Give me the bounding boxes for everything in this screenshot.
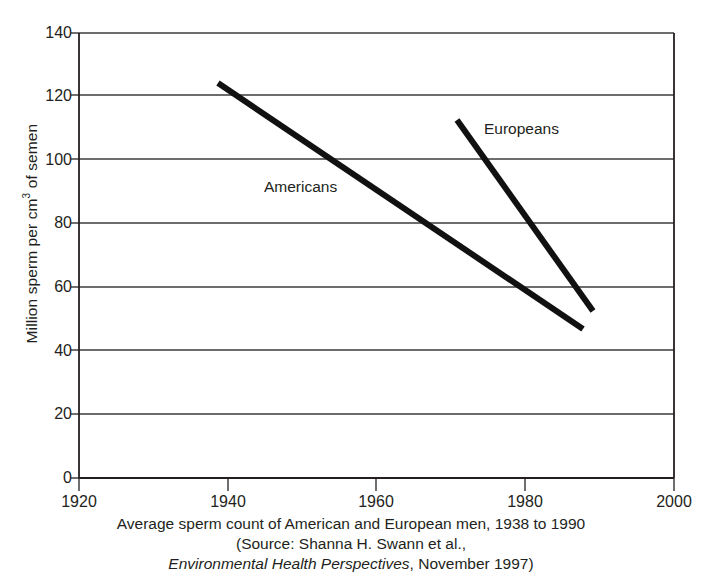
caption-line-1: Average sperm count of American and Euro… — [0, 514, 702, 534]
series-line-europeans — [457, 120, 593, 311]
x-tick-1940: 1940 — [188, 494, 268, 510]
caption-line-3: Environmental Health Perspectives, Novem… — [0, 554, 702, 574]
series-label-europeans: Europeans — [484, 120, 559, 138]
x-tick-1960: 1960 — [336, 494, 416, 510]
caption-journal-date: , November 1997) — [410, 555, 534, 572]
x-tick-1920: 1920 — [39, 494, 119, 510]
x-tick-marks — [79, 478, 674, 491]
series-label-americans: Americans — [264, 178, 337, 196]
y-gridlines — [79, 33, 674, 414]
x-tick-1980: 1980 — [485, 494, 565, 510]
x-tick-2000: 2000 — [634, 494, 702, 510]
caption-line-2: (Source: Shanna H. Swann et al., — [0, 534, 702, 554]
caption-journal-title: Environmental Health Perspectives — [168, 555, 409, 572]
y-tick-marks — [71, 33, 79, 478]
